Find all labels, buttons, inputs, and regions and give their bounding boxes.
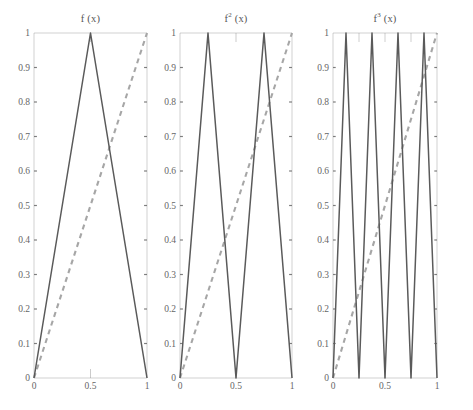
plot-svg-f3 bbox=[333, 33, 437, 378]
ytick-label: 0 bbox=[171, 373, 176, 383]
xtick-label: 0 bbox=[32, 381, 37, 391]
ytick-label: 0.6 bbox=[164, 166, 176, 176]
xtick-label: 0.5 bbox=[230, 381, 242, 391]
panel-title-f2: f2 (x) bbox=[180, 11, 292, 24]
ytick-label: 0.2 bbox=[317, 304, 329, 314]
plot-area-f2: 1 0.9 0.8 0.7 0.6 0.5 0.4 0.3 0.2 0.1 0 … bbox=[180, 33, 292, 378]
plot-svg-f1 bbox=[34, 33, 147, 378]
ytick-label: 0.9 bbox=[317, 63, 329, 73]
ytick-label: 1 bbox=[25, 28, 30, 38]
ytick-label: 0.5 bbox=[18, 201, 30, 211]
xtick-label: 1 bbox=[145, 381, 150, 391]
ytick-label: 0.5 bbox=[317, 201, 329, 211]
panel-f2: f2 (x) bbox=[180, 33, 292, 378]
xtick-label: 1 bbox=[290, 381, 295, 391]
ytick-label: 0.1 bbox=[18, 339, 30, 349]
ytick-label: 0.2 bbox=[18, 304, 30, 314]
plot-area-f3: 1 0.9 0.8 0.7 0.6 0.5 0.4 0.3 0.2 0.1 0 … bbox=[333, 33, 437, 378]
ytick-label: 0.4 bbox=[317, 235, 329, 245]
ytick-label: 0.7 bbox=[18, 132, 30, 142]
panel-f1: f (x) bbox=[34, 33, 147, 378]
plot-area-f1: 1 0.9 0.8 0.7 0.6 0.5 0.4 0.3 0.2 0.1 0 … bbox=[34, 33, 147, 378]
ytick-label: 0.2 bbox=[164, 304, 176, 314]
xtick-label: 0 bbox=[331, 381, 336, 391]
ytick-label: 1 bbox=[324, 28, 329, 38]
tent-map-iterates-figure: f (x) bbox=[0, 0, 473, 410]
ytick-label: 0.1 bbox=[164, 339, 176, 349]
ytick-label: 0.9 bbox=[164, 63, 176, 73]
ytick-label: 0.3 bbox=[317, 270, 329, 280]
panel-f3: f3 (x) bbox=[333, 33, 437, 378]
ytick-label: 0.6 bbox=[18, 166, 30, 176]
xtick-label: 1 bbox=[435, 381, 440, 391]
ytick-label: 0.5 bbox=[164, 201, 176, 211]
ytick-label: 0.8 bbox=[164, 97, 176, 107]
panel-title-arg: (x) bbox=[381, 13, 397, 24]
ytick-label: 0.4 bbox=[18, 235, 30, 245]
ytick-label: 0.8 bbox=[18, 97, 30, 107]
ytick-label: 0.7 bbox=[164, 132, 176, 142]
ytick-label: 0.6 bbox=[317, 166, 329, 176]
ytick-label: 0.3 bbox=[18, 270, 30, 280]
ytick-label: 0.7 bbox=[317, 132, 329, 142]
xtick-label: 0 bbox=[178, 381, 183, 391]
ytick-label: 0 bbox=[324, 373, 329, 383]
panel-title-arg: (x) bbox=[85, 13, 101, 24]
ytick-label: 0 bbox=[25, 373, 30, 383]
xtick-label: 0.5 bbox=[379, 381, 391, 391]
ytick-label: 1 bbox=[171, 28, 176, 38]
plot-svg-f2 bbox=[180, 33, 292, 378]
ytick-label: 0.9 bbox=[18, 63, 30, 73]
panel-title-f3: f3 (x) bbox=[333, 11, 437, 24]
xtick-label: 0.5 bbox=[85, 381, 97, 391]
panel-title-f1: f (x) bbox=[34, 11, 147, 24]
ytick-label: 0.3 bbox=[164, 270, 176, 280]
ytick-label: 0.8 bbox=[317, 97, 329, 107]
panel-title-arg: (x) bbox=[232, 13, 248, 24]
ytick-label: 0.4 bbox=[164, 235, 176, 245]
ytick-label: 0.1 bbox=[317, 339, 329, 349]
